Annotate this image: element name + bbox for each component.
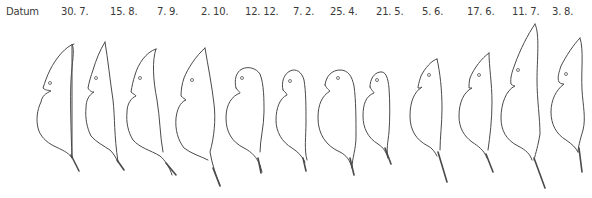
daphnia-outline-3 — [127, 49, 176, 175]
daphnia-outline-9 — [410, 59, 447, 182]
daphnia-outline-4 — [176, 48, 220, 186]
daphnia-outline-12 — [551, 38, 584, 172]
daphnia-outline-1 — [37, 44, 79, 171]
daphnia-outline-5 — [226, 68, 264, 173]
daphnia-outline-2 — [86, 42, 124, 170]
daphnia-outline-10 — [459, 53, 493, 172]
daphnia-outline-7 — [318, 70, 356, 175]
daphnia-outline-11 — [501, 24, 545, 188]
daphnia-outline-6 — [276, 70, 307, 171]
daphnia-outline-8 — [363, 72, 391, 164]
cyclomorphosis-figure — [0, 0, 592, 198]
